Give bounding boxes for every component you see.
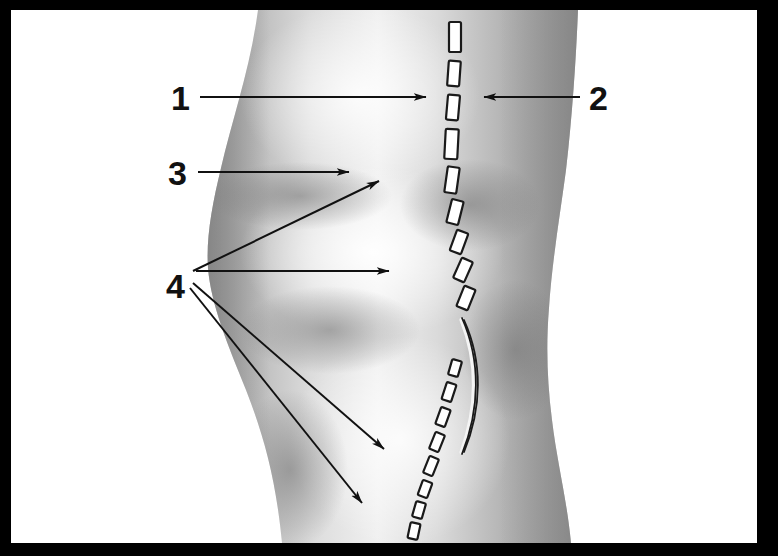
callout-label-3: 3 xyxy=(168,154,187,192)
incision-dash xyxy=(444,129,459,160)
infrapatellar-shadow xyxy=(240,286,420,374)
incision-dash xyxy=(407,522,420,540)
incision-dash xyxy=(446,95,460,121)
posterior-shadow xyxy=(400,159,540,251)
callout-label-2: 2 xyxy=(589,79,608,117)
incision-dash xyxy=(444,166,460,193)
incision-dash xyxy=(449,22,461,52)
callout-label-1: 1 xyxy=(171,79,190,117)
callout-label-4: 4 xyxy=(166,267,185,305)
thigh-highlight xyxy=(240,3,480,187)
knee-anatomy-illustration: 1 2 3 4 xyxy=(0,0,778,556)
incision-dash xyxy=(447,61,461,87)
figure-root: 1 2 3 4 xyxy=(0,0,778,556)
